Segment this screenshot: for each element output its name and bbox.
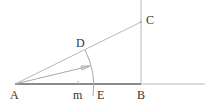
label-d: D — [76, 36, 85, 50]
arrow-line — [15, 66, 90, 84]
label-m: m — [73, 88, 83, 102]
label-b: B — [137, 88, 145, 102]
arc-de — [85, 50, 94, 96]
point-c — [140, 21, 142, 23]
label-e: E — [97, 88, 104, 102]
label-c: C — [146, 13, 154, 27]
geometry-diagram: A B C D E m — [0, 0, 208, 108]
segment-ac — [15, 22, 141, 84]
label-a: A — [10, 88, 19, 102]
